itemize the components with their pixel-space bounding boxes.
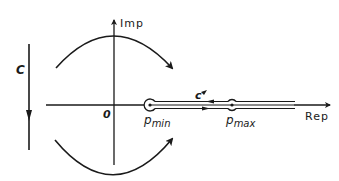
contour-C-direction-arrow — [26, 44, 32, 150]
pmin-label: pmin — [143, 113, 170, 129]
pmin-label-subscript: min — [152, 118, 171, 129]
contour-C-label: C — [16, 63, 25, 77]
contour-diagram: Imp Rep 0 C c — [0, 0, 339, 181]
pmax-label-subscript: max — [234, 118, 256, 129]
real-axis-label: Rep — [305, 110, 329, 123]
origin-label: 0 — [103, 108, 111, 121]
pmax-label: pmax — [225, 113, 255, 129]
contour-c-label: c — [195, 89, 202, 102]
contour-c-label-pointer-icon — [201, 90, 207, 95]
svg-text:pmax: pmax — [225, 113, 255, 129]
contour-c-keyhole — [150, 100, 295, 111]
svg-text:pmin: pmin — [143, 113, 170, 129]
imaginary-axis-label: Imp — [120, 17, 144, 30]
